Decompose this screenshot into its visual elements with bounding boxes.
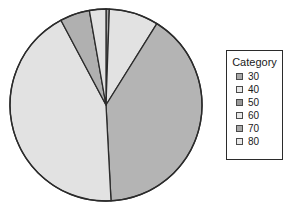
legend-item-label: 30: [248, 71, 259, 82]
legend-swatch-icon-70: [236, 125, 243, 132]
legend-item-60[interactable]: 60: [236, 109, 282, 122]
chart-canvas: Category 304050607080: [0, 0, 294, 216]
legend-item-50[interactable]: 50: [236, 96, 282, 109]
legend-item-label: 40: [248, 84, 259, 95]
pie-slice-group: [10, 9, 202, 201]
legend-item-30[interactable]: 30: [236, 70, 282, 83]
pie-chart-svg: [0, 0, 214, 216]
legend-swatch-icon-30: [236, 73, 243, 80]
legend-item-40[interactable]: 40: [236, 83, 282, 96]
legend-box: Category 304050607080: [226, 50, 283, 160]
legend-item-label: 50: [248, 97, 259, 108]
legend-item-70[interactable]: 70: [236, 122, 282, 135]
legend-item-label: 80: [248, 136, 259, 147]
legend-item-label: 70: [248, 123, 259, 134]
legend-list: 304050607080: [227, 70, 282, 148]
legend-swatch-icon-60: [236, 112, 243, 119]
legend-item-label: 60: [248, 110, 259, 121]
legend-swatch-icon-40: [236, 86, 243, 93]
legend-swatch-icon-50: [236, 99, 243, 106]
pie-chart: [0, 0, 214, 216]
legend-title: Category: [227, 56, 282, 68]
legend-swatch-icon-80: [236, 138, 243, 145]
legend-item-80[interactable]: 80: [236, 135, 282, 148]
